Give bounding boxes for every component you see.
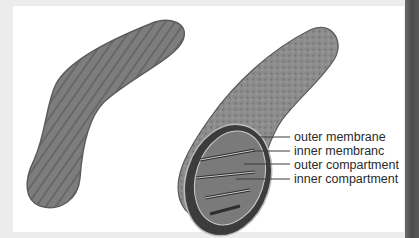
label-inner-compartment: inner compartment [294, 172, 398, 186]
label-outer-compartment: outer compartment [294, 158, 399, 172]
mitochondrion-figure [0, 0, 419, 238]
label-inner-membrane: inner membranc [294, 144, 384, 158]
label-outer-membrane: outer membrane [294, 130, 386, 144]
micrograph-mitochondrion [27, 21, 184, 208]
